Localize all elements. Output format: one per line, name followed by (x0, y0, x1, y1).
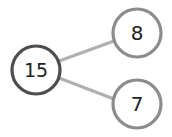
part-circle-top: 8 (113, 9, 161, 57)
part-circle-bottom: 7 (113, 80, 161, 128)
connector-whole-to-part-8 (59, 41, 114, 61)
connector-whole-to-part-7 (59, 78, 114, 99)
whole-circle: 15 (12, 46, 60, 94)
whole-value: 15 (24, 59, 48, 81)
part-top-value: 8 (131, 21, 144, 45)
part-bottom-value: 7 (131, 92, 144, 116)
number-bond-diagram: 15 8 7 (0, 0, 172, 137)
